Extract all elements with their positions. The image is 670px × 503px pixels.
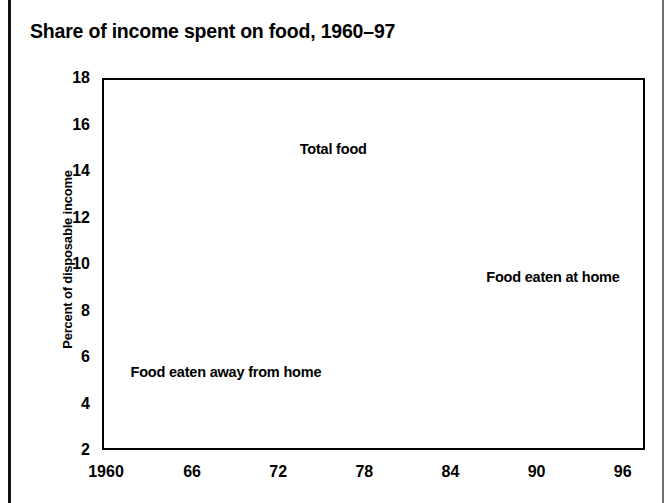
plot-frame xyxy=(102,78,645,450)
x-tick-label: 96 xyxy=(614,464,632,480)
series-label-food-at-home: Food eaten at home xyxy=(486,269,619,285)
y-tick-label: 4 xyxy=(50,396,90,412)
x-tick-label: 66 xyxy=(183,464,201,480)
y-tick-label: 8 xyxy=(50,303,90,319)
y-tick-label: 18 xyxy=(50,70,90,86)
series-label-food-away-from-home: Food eaten away from home xyxy=(130,364,321,380)
x-tick-label: 78 xyxy=(355,464,373,480)
x-tick-label: 1960 xyxy=(88,464,124,480)
x-tick-label: 72 xyxy=(269,464,287,480)
page-title: Share of income spent on food, 1960–97 xyxy=(30,20,395,43)
y-tick-label: 14 xyxy=(50,163,90,179)
plot-area xyxy=(102,78,645,450)
y-tick-label: 6 xyxy=(50,349,90,365)
x-tick-label: 90 xyxy=(528,464,546,480)
left-border-rule xyxy=(8,0,11,503)
chart-figure: Share of income spent on food, 1960–97 P… xyxy=(0,0,670,503)
y-tick-label: 2 xyxy=(50,442,90,458)
right-border-rule xyxy=(662,0,664,503)
series-label-total-food: Total food xyxy=(300,141,367,157)
y-tick-label: 10 xyxy=(50,256,90,272)
y-tick-label: 16 xyxy=(50,117,90,133)
x-tick-label: 84 xyxy=(442,464,460,480)
y-tick-label: 12 xyxy=(50,210,90,226)
